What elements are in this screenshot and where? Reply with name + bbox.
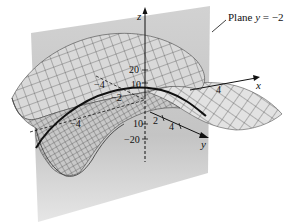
surface-plane-figure: z x y 20 10 −4 −2 2 4 −4 10 −20 4 Plane … xyxy=(0,0,293,224)
z-axis-label: z xyxy=(136,10,142,22)
y-tick-label-2: 2 xyxy=(153,115,158,126)
plane-leader-line xyxy=(212,20,226,32)
plane-annotation-prefix: Plane xyxy=(228,11,255,23)
x-tick-label-4: 4 xyxy=(216,84,221,95)
z-axis-arrow-icon xyxy=(143,7,148,14)
z-tick-label-20: 20 xyxy=(129,64,139,75)
z-tick-label-m20: −20 xyxy=(124,134,140,145)
plane-annotation-equation: = −2 xyxy=(260,11,283,23)
x-tick-label-m2: −2 xyxy=(111,92,122,103)
y-tick-label-4: 4 xyxy=(169,121,174,132)
z-tick-label-10: 10 xyxy=(131,79,141,90)
plane-annotation: Plane y = −2 xyxy=(228,11,284,23)
y-axis-label: y xyxy=(200,138,206,150)
z-tick-label-m10: 10 xyxy=(133,118,143,129)
x-axis-label: x xyxy=(255,79,261,91)
x-tick-label-m4: −4 xyxy=(94,79,105,90)
left-tick-label-m4: −4 xyxy=(70,118,81,129)
